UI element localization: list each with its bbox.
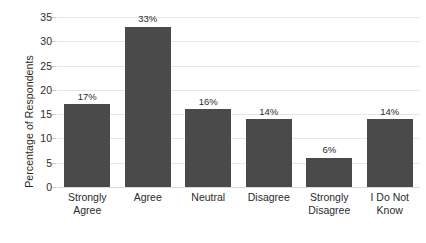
bar[interactable] (306, 158, 352, 187)
x-axis-category-label-line: Disagree (239, 191, 300, 204)
bar-value-label: 33% (118, 14, 179, 24)
x-axis-category-label: Disagree (239, 191, 300, 204)
gridline (57, 187, 420, 188)
bar-group: 14% (360, 17, 421, 187)
bar-group: 16% (178, 17, 239, 187)
x-axis-category-label-line: Know (360, 204, 421, 217)
x-axis-category-label: StronglyDisagree (299, 191, 360, 217)
bar[interactable] (64, 104, 110, 187)
x-axis-category-label-line: Agree (118, 191, 179, 204)
bar[interactable] (367, 119, 413, 187)
bar-group: 6% (299, 17, 360, 187)
bar-value-label: 17% (57, 92, 118, 102)
bar-value-label: 6% (299, 145, 360, 155)
x-axis-category-label: StronglyAgree (57, 191, 118, 217)
plot-area: 17%33%16%14%6%14% (57, 17, 420, 187)
bar-chart: Percentage of Respondents 05101520253035… (0, 0, 426, 243)
x-axis-category-label-line: Disagree (299, 204, 360, 217)
y-axis-tick-mark (52, 90, 56, 91)
y-axis-tick-mark (52, 17, 56, 18)
y-axis-tick-marks (0, 17, 57, 187)
y-axis-tick-mark (52, 187, 56, 188)
bar-group: 33% (118, 17, 179, 187)
bar[interactable] (246, 119, 292, 187)
x-axis-category-label-line: I Do Not (360, 191, 421, 204)
bar-group: 14% (239, 17, 300, 187)
y-axis-tick-mark (52, 114, 56, 115)
x-axis-category-labels: StronglyAgreeAgreeNeutralDisagreeStrongl… (57, 191, 420, 241)
y-axis-tick-mark (52, 138, 56, 139)
y-axis-tick-mark (52, 41, 56, 42)
x-axis-category-label: Neutral (178, 191, 239, 204)
x-axis-category-label-line: Strongly (57, 191, 118, 204)
bar-value-label: 16% (178, 97, 239, 107)
bar-value-label: 14% (360, 107, 421, 117)
x-axis-category-label: Agree (118, 191, 179, 204)
y-axis-tick-mark (52, 66, 56, 67)
bar[interactable] (185, 109, 231, 187)
bar[interactable] (125, 27, 171, 187)
bar-group: 17% (57, 17, 118, 187)
x-axis-category-label: I Do NotKnow (360, 191, 421, 217)
bar-value-label: 14% (239, 107, 300, 117)
x-axis-category-label-line: Agree (57, 204, 118, 217)
x-axis-category-label-line: Neutral (178, 191, 239, 204)
y-axis-tick-mark (52, 163, 56, 164)
x-axis-category-label-line: Strongly (299, 191, 360, 204)
